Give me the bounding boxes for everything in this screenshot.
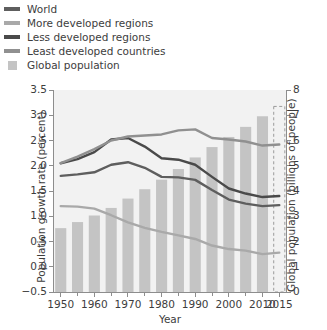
legend-item-label: Global population	[27, 60, 120, 71]
x-tick-minor	[178, 293, 179, 296]
chart-figure: WorldMore developed regionsLess develope…	[0, 0, 327, 330]
y-tick-right	[287, 90, 291, 91]
y-tick-left	[49, 292, 53, 293]
x-tick	[127, 293, 128, 297]
bar	[206, 147, 217, 292]
x-tick-minor	[77, 293, 78, 296]
legend-item: World	[4, 2, 204, 16]
bar	[173, 169, 184, 292]
legend-line-swatch-icon	[4, 49, 20, 53]
y-tick-left	[49, 140, 53, 141]
legend-item-label: World	[27, 4, 57, 15]
y-tick-label-right: 8	[293, 83, 313, 95]
x-tick	[195, 293, 196, 297]
x-tick-label: 2015	[259, 298, 299, 310]
legend-line-swatch-icon	[4, 7, 20, 11]
x-axis-title: Year	[54, 313, 286, 325]
bar	[257, 116, 268, 292]
x-tick-minor	[144, 293, 145, 296]
bar	[55, 228, 66, 292]
y-tick-left	[49, 90, 53, 91]
bar	[223, 137, 234, 292]
plot-area	[54, 90, 286, 292]
x-tick	[94, 293, 95, 297]
y-tick-left	[49, 115, 53, 116]
x-tick-minor	[245, 293, 246, 296]
legend-line-swatch-icon	[4, 21, 20, 25]
bar	[156, 180, 167, 292]
y-axis-left-spine	[53, 90, 54, 293]
legend-item: Global population	[4, 58, 204, 72]
bar-projected	[274, 106, 285, 292]
y-tick-left	[49, 191, 53, 192]
legend-item-label: More developed regions	[27, 18, 153, 29]
y-tick-left	[49, 216, 53, 217]
bar	[72, 222, 83, 292]
x-tick-minor	[111, 293, 112, 296]
x-tick	[60, 293, 61, 297]
y-tick-left	[49, 165, 53, 166]
y-tick-label-left: 3.5	[6, 83, 47, 95]
chart-legend: WorldMore developed regionsLess develope…	[4, 2, 204, 72]
legend-item: More developed regions	[4, 16, 204, 30]
x-tick	[279, 293, 280, 297]
y-tick-left	[49, 266, 53, 267]
x-tick-minor	[212, 293, 213, 296]
y-tick-right	[287, 292, 291, 293]
legend-item-label: Less developed regions	[27, 32, 150, 43]
y-tick-left	[49, 241, 53, 242]
bar	[106, 208, 117, 292]
y-axis-left-title: Population growth rate (percent)	[35, 102, 47, 292]
bar	[122, 199, 133, 292]
x-tick	[262, 293, 263, 297]
y-axis-right-title: Global population (billions of people)	[285, 102, 297, 292]
bar	[89, 215, 100, 292]
x-tick	[228, 293, 229, 297]
bar	[139, 189, 150, 292]
x-axis-spine	[53, 292, 287, 293]
legend-item: Less developed regions	[4, 30, 204, 44]
plot-clip	[54, 90, 286, 292]
legend-item: Least developed countries	[4, 44, 204, 58]
legend-item-label: Least developed countries	[27, 46, 166, 57]
bar	[240, 127, 251, 292]
legend-area-swatch-icon	[8, 61, 17, 70]
bar	[190, 157, 201, 292]
x-tick	[161, 293, 162, 297]
legend-line-swatch-icon	[4, 35, 20, 39]
